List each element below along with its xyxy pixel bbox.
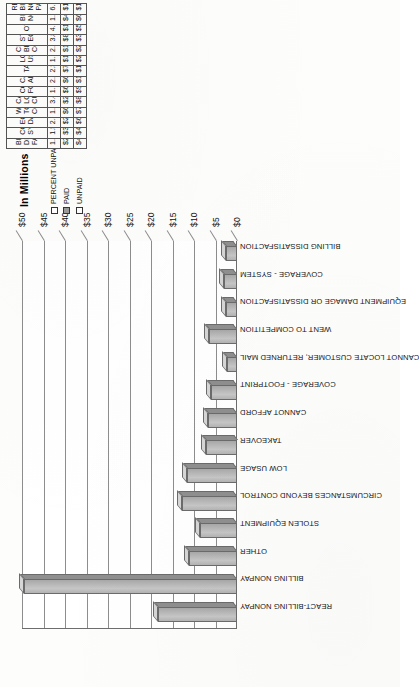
- bar: [211, 385, 237, 400]
- bar-front-face: [206, 440, 238, 455]
- table-cell: 1.57%: [48, 128, 61, 138]
- table-cell: 4.53%: [48, 24, 61, 34]
- table-cell: 1.27%: [48, 14, 61, 24]
- bar: [187, 468, 237, 483]
- table-cell: $94: [73, 86, 86, 96]
- table-cell: $18,422: [60, 4, 73, 15]
- table-column-header: STOLEN EQUIPMENT: [7, 35, 48, 45]
- table-column-header: CANNOT AFFORT: [7, 76, 48, 86]
- bar-front-face: [200, 524, 237, 539]
- table-cell: $71: [73, 107, 86, 117]
- table-cell: $146: [73, 76, 86, 86]
- table-column-header: CANNOT LOCATE CUSTOMER: [7, 97, 48, 107]
- table-column-header: LOW USAGE: [7, 55, 48, 65]
- bar: [200, 524, 237, 539]
- bar: [224, 274, 237, 289]
- table-cell: $12,795: [60, 45, 73, 55]
- table-cell: $292: [73, 45, 86, 55]
- category-label: WENT TO COMPETITION: [240, 325, 331, 334]
- bar: [209, 330, 237, 345]
- table-row-header-label: PAID: [62, 188, 71, 204]
- legend-swatch-icon: [76, 207, 83, 214]
- table-cell: $8,586: [60, 35, 73, 45]
- bar: [158, 607, 237, 622]
- table-row-header-label: UNPAID: [75, 177, 84, 204]
- table-cell: 1.51%: [48, 86, 61, 96]
- bar-front-face: [24, 579, 237, 594]
- category-label: REACT-BILLING NONPAY: [240, 602, 332, 611]
- category-label: COVERAGE - FOOTPRINT: [240, 380, 336, 389]
- category-label: LOW USAGE: [240, 464, 287, 473]
- table-cell: 1.10%: [48, 107, 61, 117]
- bar-front-face: [211, 385, 237, 400]
- category-label: BILLING DISSATISFACTION: [240, 242, 340, 251]
- category-label: CANNOT LOCATE CUSTOMER, RETURNED MAIL: [240, 353, 419, 362]
- axis-tick: [231, 230, 238, 241]
- table-column-header: WENT TO COMPETITION: [7, 107, 48, 117]
- table-column-header: COVERAGE-SYSTEM: [7, 128, 48, 138]
- bar-front-face: [158, 607, 237, 622]
- axis-tick: [16, 230, 23, 241]
- bar: [227, 357, 237, 372]
- table-column-header: BILLING NONPAY: [7, 14, 48, 24]
- table-cell: 2.12%: [48, 76, 61, 86]
- category-axis-labels: REACT-BILLING NONPAYBILLING NONPAYOTHERS…: [240, 241, 400, 628]
- bar-series-paid: [22, 241, 237, 628]
- axis-tick: [102, 230, 109, 241]
- table-cell: $2,640: [60, 138, 73, 148]
- category-label: BILLING NONPAY: [240, 574, 304, 583]
- table-row: PAID$2,640$3,011$2,491$6,409$2,399$6,136…: [60, 4, 73, 218]
- table-row-header: PERCENT UNPAID: [48, 149, 61, 218]
- table-cell: $2,491: [60, 117, 73, 127]
- category-label: STOLEN EQUIPMENT: [240, 519, 319, 528]
- table-cell: $7,326: [60, 66, 73, 76]
- table-cell: $215: [73, 55, 86, 65]
- bar: [189, 551, 237, 566]
- table-row-header-label: PERCENT UNPAID: [49, 149, 58, 205]
- table-row: UNPAID$42$48$64$71$85$94$146$173$215$292…: [73, 4, 86, 218]
- table-column-header: CIRCUMSTANCES BEYOND CONTROL: [7, 45, 48, 55]
- y-tick-label: $0: [232, 217, 242, 227]
- table-cell: 2.23%: [48, 45, 61, 55]
- category-label: COVERAGE - SYSTEM: [240, 270, 323, 279]
- table-cell: $49,567: [60, 14, 73, 24]
- category-label: CIRCUMSTANCES BEYOND CONTROL: [240, 491, 382, 500]
- table-cell: $534: [73, 24, 86, 34]
- table-cell: $11,244: [60, 24, 73, 34]
- bar: [226, 302, 237, 317]
- bar: [226, 246, 237, 261]
- bar-front-face: [224, 274, 237, 289]
- bar-front-face: [226, 246, 237, 261]
- table-column-header: OTHER: [7, 24, 48, 34]
- table-cell: $2,399: [60, 97, 73, 107]
- category-label: TAKEOVER: [240, 436, 282, 445]
- table-cell: $6,136: [60, 86, 73, 96]
- legend-swatch-icon: [51, 207, 58, 214]
- axis-tick: [37, 230, 44, 241]
- category-label: OTHER: [240, 547, 267, 556]
- table-cell: $640: [73, 14, 86, 24]
- table-cell: 1.81%: [48, 55, 61, 65]
- bar: [208, 413, 237, 428]
- axis-tick: [80, 230, 87, 241]
- y-tick-label: $5: [211, 217, 221, 227]
- table-column-header: BILLING DISSATIS-FACTION: [7, 138, 48, 148]
- table-column-header: EQUIPMENT DAMAGE: [7, 117, 48, 127]
- table-cell: $6,409: [60, 107, 73, 117]
- table-cell: $173: [73, 66, 86, 76]
- table-corner-cell: [7, 149, 48, 218]
- axis-tick: [166, 230, 173, 241]
- table-cell: 2.50%: [48, 117, 61, 127]
- bar-front-face: [189, 551, 237, 566]
- category-label: EQUIPMENT DAMAGE OR DISSATISFACTION: [240, 297, 406, 306]
- legend-swatch-icon: [63, 207, 70, 214]
- table-cell: $85: [73, 97, 86, 107]
- data-table: BILLING DISSATIS-FACTIONCOVERAGE-SYSTEME…: [6, 3, 87, 217]
- table-cell: 2.31%: [48, 66, 61, 76]
- table-column-header: REACT-BILLING NON PAY: [7, 4, 48, 15]
- bar: [182, 496, 237, 511]
- table-cell: $341: [73, 35, 86, 45]
